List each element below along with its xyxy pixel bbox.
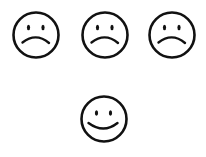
sad-face-1: sad — [11, 10, 61, 60]
sad-face-2: sad — [80, 10, 130, 60]
sad-face-icon — [11, 10, 61, 60]
face-expression-label: happy — [79, 144, 80, 145]
sad-face-icon — [80, 10, 130, 60]
face-expression-label: sad — [11, 60, 12, 61]
sad-face-icon — [147, 10, 197, 60]
face-expression-label: sad — [147, 60, 148, 61]
happy-face-icon — [79, 94, 129, 144]
sad-face-3: sad — [147, 10, 197, 60]
face-expression-label: sad — [80, 60, 81, 61]
happy-face: happy — [79, 94, 129, 144]
